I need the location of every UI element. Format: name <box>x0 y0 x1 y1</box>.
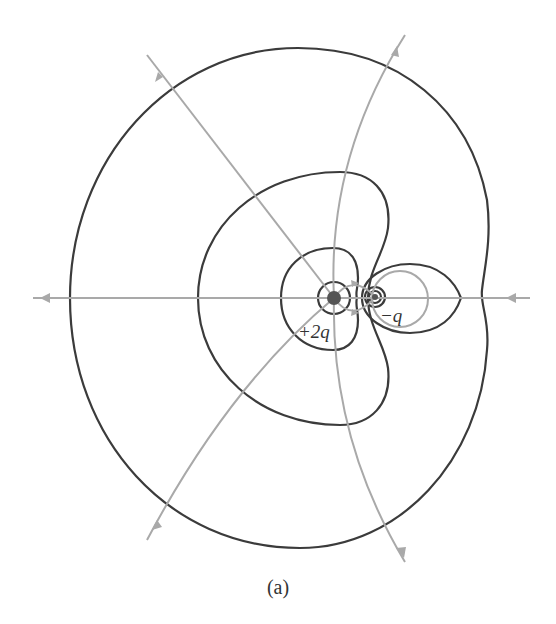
field-line-upper-right <box>333 35 405 298</box>
figure-caption: (a) <box>0 576 556 599</box>
arrow-left-icon <box>506 293 516 303</box>
field-diagram: +2q −q <box>0 0 556 624</box>
field-line-lower-right <box>334 298 405 562</box>
arrow-left-icon <box>40 293 50 303</box>
negative-charge-label: −q <box>380 305 403 326</box>
positive-charge-label: +2q <box>298 321 330 342</box>
arrow-down-icon <box>152 520 162 530</box>
negative-charge <box>372 294 378 300</box>
positive-charge <box>327 291 341 305</box>
